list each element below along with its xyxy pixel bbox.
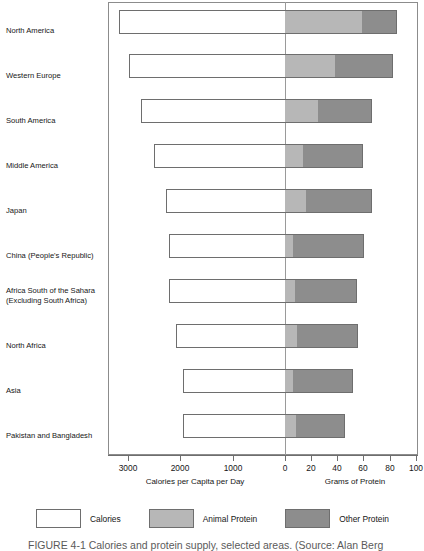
bar-segment-other-protein (295, 280, 356, 302)
bar-segment-other-protein (335, 55, 392, 77)
bar-group (119, 10, 397, 34)
bar-segment-animal-protein (285, 325, 297, 347)
bar-segment-animal-protein (285, 370, 293, 392)
bar-segment-calories (130, 55, 285, 77)
other-protein-swatch (285, 509, 330, 528)
category-label: North America (6, 26, 106, 36)
category-label: South America (6, 116, 106, 126)
bar-group (169, 234, 364, 258)
bar-segment-other-protein (297, 325, 357, 347)
bar-group (154, 144, 363, 168)
axis-tick-label: 2000 (160, 463, 200, 473)
axis-tick-label: 3000 (108, 463, 148, 473)
bar-group (129, 54, 393, 78)
bar-segment-calories (120, 11, 285, 33)
bar-segment-other-protein (296, 415, 344, 437)
bar-group (183, 369, 353, 393)
category-label: Pakistan and Bangladesh (6, 431, 106, 441)
bar-segment-animal-protein (285, 280, 295, 302)
axis-tick (390, 456, 391, 461)
bar-segment-other-protein (303, 145, 362, 167)
bar-segment-other-protein (362, 11, 396, 33)
bar-segment-calories (170, 280, 285, 302)
bar-segment-animal-protein (285, 190, 306, 212)
bar-segment-calories (170, 235, 285, 257)
bar-segment-other-protein (293, 370, 352, 392)
axis-tick (180, 456, 181, 461)
bar-segment-calories (184, 370, 285, 392)
category-label: Japan (6, 206, 106, 216)
legend-label: Animal Protein (203, 514, 257, 524)
category-label: Middle America (6, 161, 106, 171)
bar-segment-calories (184, 415, 285, 437)
category-label: Asia (6, 386, 106, 396)
bar-segment-animal-protein (285, 415, 296, 437)
bar-group (169, 279, 357, 303)
bar-segment-other-protein (293, 235, 363, 257)
bar-group (183, 414, 345, 438)
figure-caption: FIGURE 4-1 Calories and protein supply, … (28, 539, 424, 551)
bar-segment-animal-protein (285, 55, 336, 77)
axis-tick-label: 1000 (213, 463, 253, 473)
axis-tick-label: 100 (396, 463, 424, 473)
axis-tick (128, 456, 129, 461)
category-label: North Africa (6, 341, 106, 351)
bar-segment-animal-protein (285, 235, 293, 257)
category-label: Western Europe (6, 71, 106, 81)
legend-item: Other Protein (285, 509, 389, 528)
bar-segment-other-protein (318, 100, 371, 122)
category-label: Africa South of the Sahara (Excluding So… (6, 286, 106, 305)
animal-protein-swatch (149, 509, 194, 528)
axis-tick (416, 456, 417, 461)
axis-tick (285, 456, 286, 461)
bar-segment-animal-protein (285, 145, 303, 167)
legend-label: Calories (90, 514, 121, 524)
bar-segment-calories (177, 325, 285, 347)
legend-item: Calories (36, 509, 121, 528)
bar-group (166, 189, 372, 213)
bar-segment-calories (142, 100, 285, 122)
bar-group (141, 99, 372, 123)
axis-tick (233, 456, 234, 461)
category-label: China (People's Republic) (6, 251, 106, 261)
bar-segment-calories (155, 145, 285, 167)
bar-segment-other-protein (306, 190, 371, 212)
bar-segment-animal-protein (285, 11, 362, 33)
axis-tick (311, 456, 312, 461)
calories-swatch (36, 509, 81, 528)
legend-label: Other Protein (339, 514, 389, 524)
bar-segment-calories (167, 190, 285, 212)
right-axis-title: Grams of Protein (255, 477, 424, 486)
bar-segment-animal-protein (285, 100, 319, 122)
axis-tick (363, 456, 364, 461)
legend-item: Animal Protein (149, 509, 257, 528)
bar-group (176, 324, 358, 348)
x-axis-line (108, 455, 418, 456)
chart-legend: CaloriesAnimal ProteinOther Protein (36, 509, 417, 528)
axis-tick (337, 456, 338, 461)
